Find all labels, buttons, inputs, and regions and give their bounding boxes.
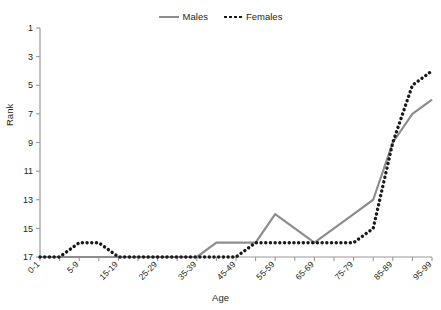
- x-axis: 0-15-915-1925-2935-3945-4955-5965-6975-7…: [26, 257, 434, 282]
- data-series: [40, 71, 432, 257]
- y-tick-label: 1: [28, 23, 33, 33]
- x-tick-label: 65-69: [293, 259, 316, 282]
- x-tick-label: 75-79: [333, 259, 356, 282]
- plot-area: 1357911131517 0-15-915-1925-2935-3945-49…: [0, 0, 441, 310]
- y-tick-label: 9: [28, 138, 33, 148]
- x-tick-label: 85-89: [372, 259, 395, 282]
- x-tick-label: 15-19: [97, 259, 120, 282]
- y-tick-label: 3: [28, 52, 33, 62]
- x-tick-label: 5-9: [65, 259, 81, 275]
- y-tick-label: 15: [23, 224, 33, 234]
- x-tick-label: 95-99: [411, 259, 434, 282]
- y-tick-label: 5: [28, 80, 33, 90]
- x-tick-label: 55-59: [254, 259, 277, 282]
- y-tick-label: 13: [23, 195, 33, 205]
- y-axis-title: Rank: [4, 104, 15, 126]
- y-tick-label: 7: [28, 109, 33, 119]
- y-tick-label: 11: [24, 166, 33, 176]
- x-tick-label: 45-49: [215, 259, 238, 282]
- x-tick-label: 25-29: [137, 259, 160, 282]
- series-line-males: [40, 100, 432, 257]
- y-axis: 1357911131517: [23, 23, 40, 262]
- x-tick-label: 35-39: [176, 259, 199, 282]
- x-axis-title: Age: [0, 292, 441, 303]
- series-line-females: [40, 71, 432, 257]
- y-tick-label: 17: [23, 252, 33, 262]
- line-chart: Males Females 1357911131517 0-15-915-192…: [0, 0, 441, 310]
